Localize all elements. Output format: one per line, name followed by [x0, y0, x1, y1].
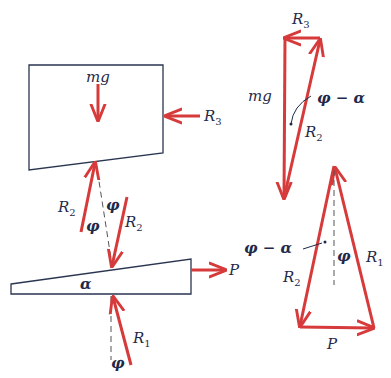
p-label: P [228, 261, 240, 279]
poly-r2 [284, 40, 320, 198]
r2-right-label: R2 [124, 213, 143, 233]
poly2-r1-label: R1 [365, 248, 384, 268]
poly2-angle-label: φ − α [244, 239, 293, 257]
r3-label: R3 [203, 107, 222, 127]
poly-r3-label: R3 [291, 10, 310, 30]
poly2-p [300, 327, 373, 328]
wedge-diagram: mg R3 R2 R2 φ φ α P R1 φ R3 mg R2 φ − α … [0, 0, 391, 378]
poly2-phi-label: φ [337, 247, 351, 265]
poly2-r2-label: R2 [282, 268, 301, 288]
r1-label: R1 [132, 329, 151, 349]
phi-right-label: φ [106, 196, 120, 214]
poly-r2-label: R2 [304, 123, 323, 143]
phi-lower-label: φ [111, 354, 125, 372]
poly-mg [284, 38, 285, 198]
wedge [11, 259, 191, 294]
poly-angle-label: φ − α [317, 89, 366, 107]
alpha-label: α [80, 275, 92, 293]
r2-left-label: R2 [57, 198, 76, 218]
mg-label: mg [86, 68, 110, 86]
poly-mg-label: mg [248, 87, 272, 105]
poly2-r2 [300, 166, 334, 326]
phi-left-label: φ [86, 217, 100, 235]
poly2-p-label: P [326, 335, 338, 353]
